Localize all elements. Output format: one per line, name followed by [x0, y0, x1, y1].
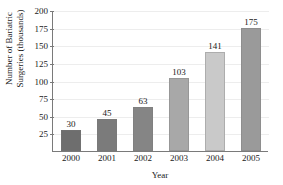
- bar[interactable]: 1032003: [169, 78, 190, 151]
- y-axis-tick-mark: [50, 82, 54, 83]
- y-axis-tick-mark: [50, 11, 54, 12]
- bar-value-label: 175: [244, 18, 258, 27]
- x-axis-tick-label: 2000: [62, 154, 80, 163]
- bar[interactable]: 1752005: [241, 28, 262, 151]
- plot-area: 2550751001251501752003020004520016320021…: [52, 11, 268, 152]
- x-axis-tick-label: 2003: [170, 154, 188, 163]
- y-axis-tick-label: 175: [35, 24, 49, 33]
- bar-value-label: 30: [66, 120, 75, 129]
- x-axis-tick-label: 2002: [134, 154, 152, 163]
- gridline: [53, 29, 269, 30]
- bar[interactable]: 452001: [97, 119, 118, 151]
- bar[interactable]: 302000: [61, 130, 82, 151]
- x-axis-title: Year: [52, 170, 268, 180]
- y-axis-tick-label: 75: [39, 95, 48, 104]
- y-axis-tick-mark: [50, 134, 54, 135]
- bar-value-label: 45: [102, 109, 111, 118]
- bar-value-label: 63: [138, 97, 147, 106]
- gridline: [53, 11, 269, 12]
- bar[interactable]: 1412004: [205, 52, 226, 151]
- chart-title: [0, 0, 283, 3]
- gridline: [53, 46, 269, 47]
- y-axis-tick-label: 200: [35, 7, 49, 16]
- gridline: [53, 134, 269, 135]
- y-axis-tick-mark: [50, 117, 54, 118]
- bar[interactable]: 632002: [133, 107, 154, 151]
- x-axis-tick-label: 2004: [206, 154, 224, 163]
- gridline: [53, 64, 269, 65]
- y-axis-tick-label: 50: [39, 112, 48, 121]
- bar-value-label: 141: [208, 42, 222, 51]
- y-axis-tick-label: 25: [39, 130, 48, 139]
- x-axis-tick-label: 2001: [98, 154, 116, 163]
- y-axis-tick-mark: [50, 64, 54, 65]
- y-axis-title-line-2: Surgeries (thousands): [14, 0, 25, 119]
- y-axis-tick-mark: [50, 29, 54, 30]
- y-axis-tick-label: 100: [35, 77, 49, 86]
- bar-value-label: 103: [172, 68, 186, 77]
- gridline: [53, 82, 269, 83]
- bar-chart-figure: Number of Bariatric Surgeries (thousands…: [0, 0, 283, 185]
- x-axis-tick-label: 2005: [242, 154, 260, 163]
- y-axis-tick-mark: [50, 99, 54, 100]
- y-axis-tick-label: 150: [35, 42, 49, 51]
- y-axis-title: Number of Bariatric Surgeries (thousands…: [4, 0, 25, 119]
- y-axis-title-line-1: Number of Bariatric: [4, 0, 15, 119]
- gridline: [53, 117, 269, 118]
- y-axis-tick-label: 125: [35, 59, 49, 68]
- gridline: [53, 99, 269, 100]
- y-axis-tick-mark: [50, 46, 54, 47]
